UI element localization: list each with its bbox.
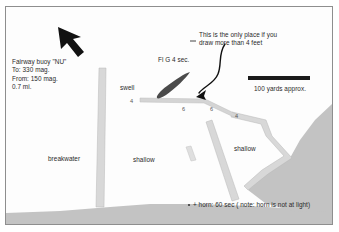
- breakwater-left: [96, 68, 106, 207]
- sounding-depth: 4: [130, 97, 133, 105]
- channel-bar: [140, 98, 236, 118]
- sounding-depth: 6: [182, 105, 185, 113]
- shallow-label-left: shallow: [133, 156, 155, 164]
- horn-bullet-icon: [188, 204, 190, 206]
- entrance-note: This is the only place if you draw more …: [199, 31, 277, 48]
- shallow-label-right: shallow: [234, 145, 256, 153]
- swell-label: swell: [120, 84, 134, 92]
- scale-label: 100 yards approx.: [254, 85, 306, 93]
- jetty-diagonal: [206, 120, 239, 201]
- rock-detached: [186, 146, 196, 161]
- sounding-depth: 6: [210, 105, 213, 113]
- breakwater-label: breakwater: [48, 155, 80, 163]
- light-structure-marker: [157, 72, 190, 98]
- sketch-graphics: [0, 0, 339, 232]
- light-characteristic-label: Fl G 4 sec.: [158, 56, 189, 64]
- entrance-leader-curve: [199, 44, 225, 93]
- sounding-depth: 4: [235, 112, 238, 120]
- scale-bar: [248, 76, 310, 80]
- harbor-approach-sketch: Fairway buoy "NU" To: 330 mag. From: 150…: [0, 0, 339, 232]
- fairway-arrow: [58, 27, 84, 57]
- horn-note: + horn: 60 sec ( note: horn is not at li…: [193, 201, 310, 209]
- fairway-buoy-note: Fairway buoy "NU" To: 330 mag. From: 150…: [12, 58, 66, 92]
